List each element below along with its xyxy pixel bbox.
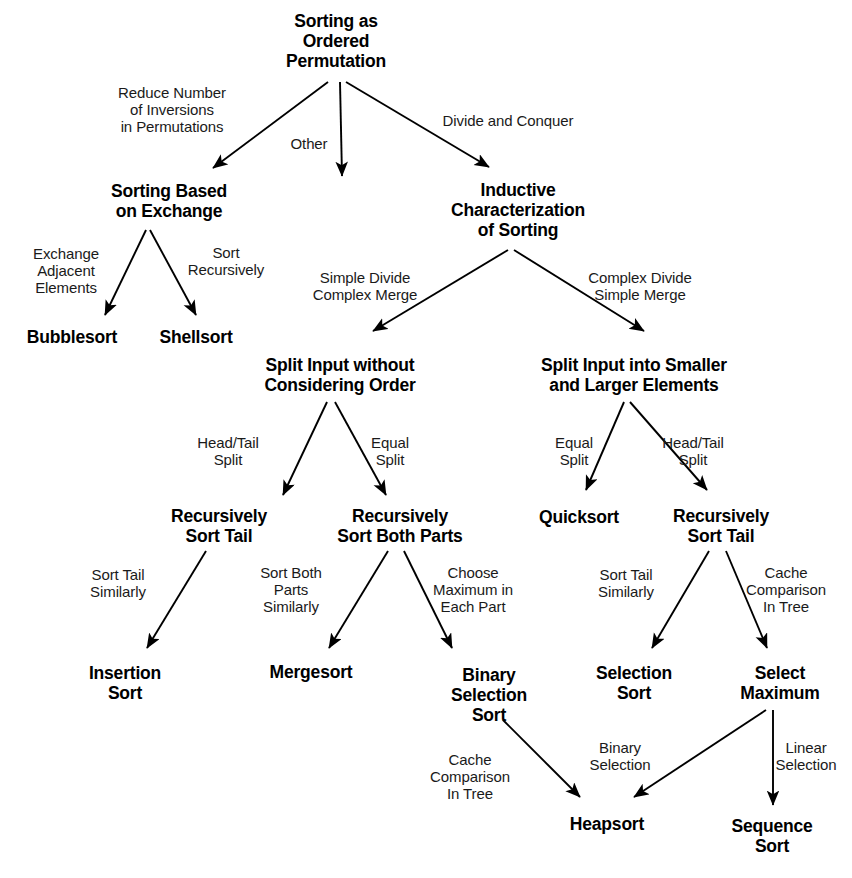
node-rec_both: Recursively Sort Both Parts xyxy=(305,507,495,547)
edge-label: Cache Comparison In Tree xyxy=(430,751,510,802)
edge-label: Linear Selection xyxy=(776,739,837,773)
edge-label: Other xyxy=(290,135,327,152)
node-root: Sorting as Ordered Permutation xyxy=(236,12,436,71)
edge-label: Exchange Adjacent Elements xyxy=(33,245,99,296)
edge-label: Sort Recursively xyxy=(188,244,264,278)
edge-label: Head/Tail Split xyxy=(662,434,724,468)
node-split_noorder: Split Input without Considering Order xyxy=(215,356,465,396)
node-bubblesort: Bubblesort xyxy=(2,328,142,348)
node-rec_tail_right: Recursively Sort Tail xyxy=(641,507,801,547)
edge-arrow xyxy=(283,402,327,495)
sorting-taxonomy-diagram: Sorting as Ordered PermutationSorting Ba… xyxy=(0,0,852,878)
edge-arrow xyxy=(105,230,146,315)
node-heapsort: Heapsort xyxy=(537,815,677,835)
node-shellsort: Shellsort xyxy=(131,328,261,348)
node-mergesort: Mergesort xyxy=(236,663,386,683)
edge-label: Divide and Conquer xyxy=(443,112,574,129)
edge-label: Binary Selection xyxy=(590,739,651,773)
edge-label: Sort Tail Similarly xyxy=(90,566,146,600)
node-quicksort: Quicksort xyxy=(514,508,644,528)
edge-arrow xyxy=(634,710,766,797)
edge-label: Equal Split xyxy=(371,434,409,468)
edge-arrow xyxy=(340,82,342,176)
node-sequence_sort: Sequence Sort xyxy=(697,817,847,857)
node-select_max: Select Maximum xyxy=(705,664,852,704)
node-inductive: Inductive Characterization of Sorting xyxy=(408,181,628,240)
node-binary_sel_sort: Binary Selection Sort xyxy=(419,666,559,725)
edge-label: Complex Divide Simple Merge xyxy=(588,269,692,303)
node-split_smaller: Split Input into Smaller and Larger Elem… xyxy=(494,356,774,396)
edge-label: Simple Divide Complex Merge xyxy=(313,269,418,303)
edge-label: Cache Comparison In Tree xyxy=(746,564,826,615)
edge-label: Reduce Number of Inversions in Permutati… xyxy=(118,84,226,135)
edge-label: Sort Tail Similarly xyxy=(598,566,654,600)
node-exchange: Sorting Based on Exchange xyxy=(69,182,269,222)
edge-arrow xyxy=(329,551,388,648)
edge-arrow xyxy=(503,720,580,797)
edge-arrow xyxy=(652,551,709,648)
edge-label: Choose Maximum in Each Part xyxy=(433,564,513,615)
edge-arrow xyxy=(147,551,206,648)
edge-label: Sort Both Parts Similarly xyxy=(260,564,322,615)
node-rec_tail_left: Recursively Sort Tail xyxy=(139,507,299,547)
edge-arrow xyxy=(213,82,328,168)
edge-label: Head/Tail Split xyxy=(197,434,259,468)
node-selection_sort: Selection Sort xyxy=(564,664,704,704)
edge-label: Equal Split xyxy=(555,434,593,468)
node-insertion_sort: Insertion Sort xyxy=(55,664,195,704)
